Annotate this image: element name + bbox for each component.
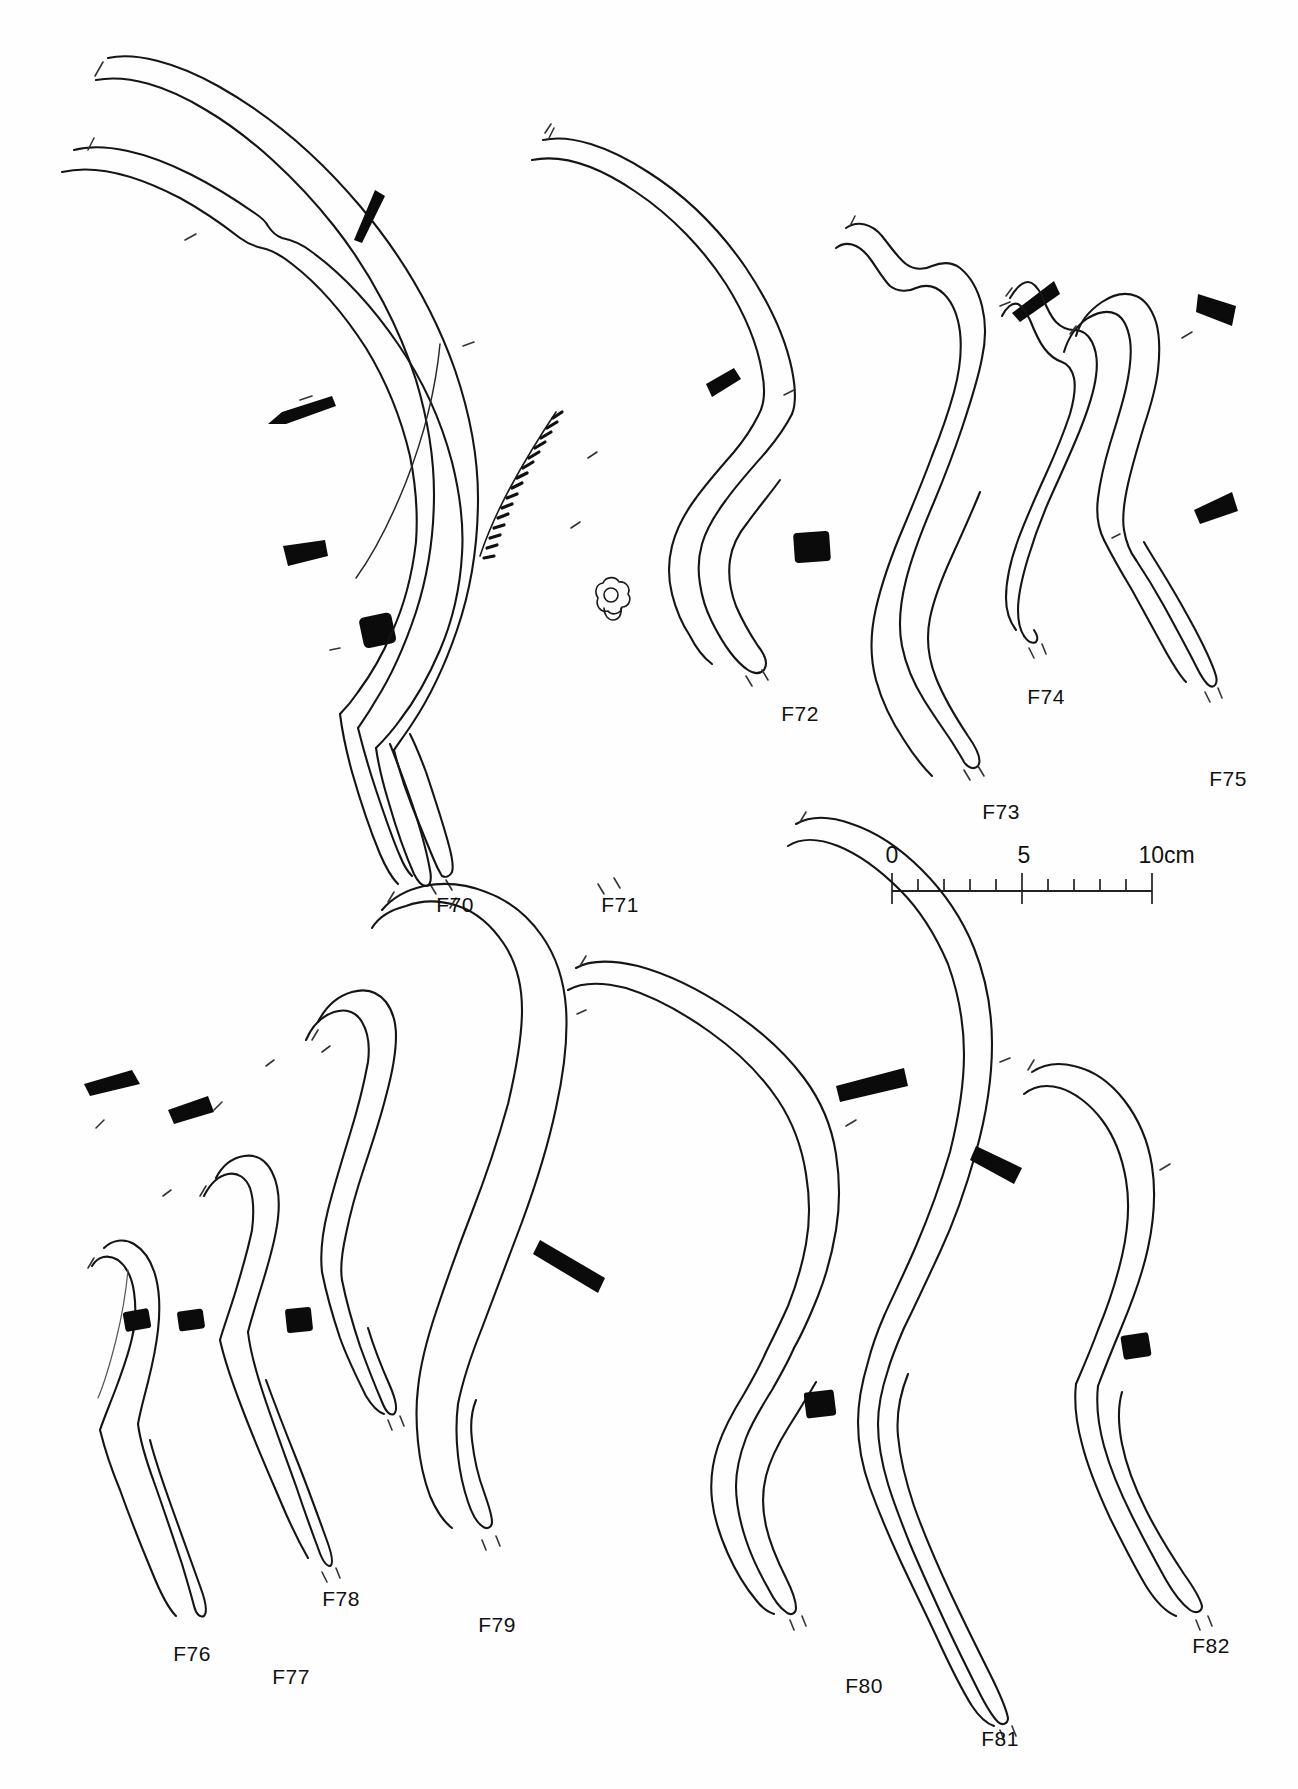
cross-section-mark — [533, 1240, 605, 1293]
perforation-motif — [596, 578, 630, 620]
scale-bar — [892, 873, 1152, 904]
cross-section-mark — [358, 612, 397, 649]
artefact-label-F82: F82 — [1192, 1634, 1230, 1658]
cross-section-mark — [268, 396, 336, 424]
cross-section-mark — [1120, 1332, 1151, 1360]
artefact-F80 — [568, 956, 856, 1630]
cross-section-mark — [1194, 492, 1238, 524]
artefact-label-F80: F80 — [845, 1674, 883, 1698]
cross-section-mark — [970, 1146, 1022, 1184]
artefact-F72 — [532, 128, 831, 686]
plate-drawing — [0, 0, 1298, 1789]
artefact-label-F75: F75 — [1209, 767, 1247, 791]
artefact-F75 — [1064, 294, 1238, 702]
artefact-label-F76: F76 — [173, 1642, 211, 1666]
scale-label-0: 0 — [886, 842, 899, 869]
artefact-label-F70: F70 — [436, 893, 474, 917]
cross-section-mark — [285, 1307, 313, 1334]
cross-section-mark — [836, 1068, 908, 1102]
artefact-label-F72: F72 — [781, 702, 819, 726]
artefact-label-F79: F79 — [478, 1613, 516, 1637]
artefact-F74 — [1002, 282, 1097, 658]
artefact-F81 — [788, 812, 1016, 1740]
cross-section-mark — [354, 190, 385, 243]
artefact-label-F71: F71 — [601, 893, 639, 917]
artefact-label-F77: F77 — [272, 1665, 310, 1689]
artefact-F71 — [62, 124, 630, 894]
cross-section-mark — [168, 1096, 214, 1124]
cross-section-mark — [84, 1070, 140, 1096]
cross-section-mark — [804, 1389, 837, 1418]
artefact-label-F78: F78 — [322, 1587, 360, 1611]
artefact-F78 — [285, 990, 404, 1430]
cross-section-mark — [1196, 294, 1236, 326]
artefact-plate: F70 F71 F72 F73 F74 F75 F76 F77 F78 F79 … — [0, 0, 1298, 1789]
cross-section-mark — [793, 531, 831, 563]
artefact-F82 — [970, 1060, 1212, 1630]
scale-label-10cm: 10cm — [1138, 842, 1194, 869]
artefact-F77 — [168, 1060, 340, 1582]
artefact-F70 — [95, 56, 478, 894]
artefact-label-F74: F74 — [1027, 685, 1065, 709]
decoration-notched-band — [480, 412, 562, 558]
cross-section-mark — [122, 1308, 151, 1332]
scale-label-5: 5 — [1018, 842, 1031, 869]
artefact-F79 — [372, 884, 605, 1550]
artefact-F76 — [84, 1070, 206, 1617]
cross-section-mark — [177, 1308, 206, 1331]
artefact-label-F73: F73 — [982, 800, 1020, 824]
cross-section-mark — [706, 368, 741, 397]
cross-section-mark — [283, 540, 328, 566]
artefact-label-F81: F81 — [981, 1727, 1019, 1751]
